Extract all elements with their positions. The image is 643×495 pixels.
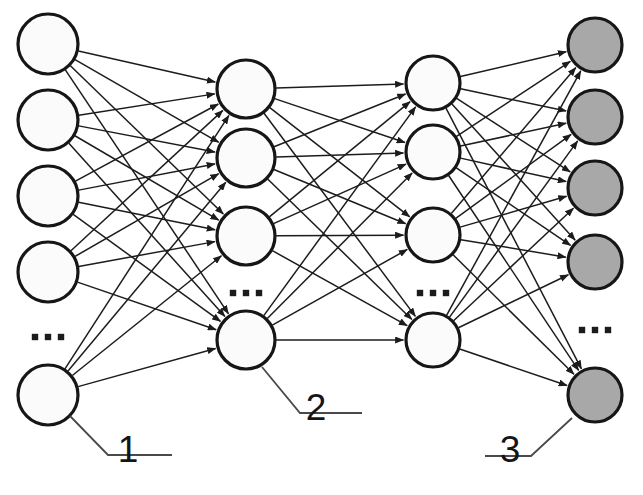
edge-input-layer-5-to-hidden-layer-1-1 [65, 115, 229, 368]
edge-hidden-layer-1-4-to-hidden-layer-2-1 [264, 107, 416, 316]
connection-edges-group [65, 51, 581, 387]
edge-hidden-layer-2-3-to-output-layer-1 [451, 67, 576, 213]
output-node-4[interactable] [568, 235, 622, 289]
neural-network-diagram: 123 [0, 0, 643, 495]
edge-input-layer-5-to-hidden-layer-1-2 [68, 182, 226, 371]
edge-hidden-layer-2-3-to-output-layer-4 [461, 240, 566, 258]
callout-1: 1 [70, 416, 172, 470]
callout-labels-group: 123 [70, 367, 572, 470]
output-layer-ellipsis [579, 327, 611, 333]
input-node-1[interactable] [18, 14, 78, 74]
input-node-n[interactable] [18, 365, 78, 425]
ellipsis-dot [605, 327, 611, 333]
ellipsis-dot [443, 290, 449, 296]
ellipsis-dot [579, 327, 585, 333]
edge-hidden-layer-2-4-to-output-layer-2 [450, 141, 578, 317]
hidden-layer-1-ellipsis [230, 290, 262, 296]
callout-3: 3 [485, 418, 572, 470]
edge-input-layer-2-to-hidden-layer-1-4 [69, 143, 225, 316]
ellipsis-dot [256, 290, 262, 296]
input-layer-ellipsis [32, 334, 64, 340]
edge-input-layer-3-to-hidden-layer-1-1 [75, 104, 218, 181]
hidden1-node-2[interactable] [217, 129, 275, 187]
hidden1-node-n[interactable] [217, 311, 275, 369]
hidden2-node-1[interactable] [406, 56, 460, 110]
edge-hidden-layer-1-1-to-hidden-layer-2-3 [270, 108, 410, 217]
output-node-n[interactable] [568, 368, 622, 422]
edge-input-layer-2-to-hidden-layer-1-2 [79, 126, 215, 152]
callout-2-text: 2 [306, 387, 327, 428]
edge-hidden-layer-2-1-to-output-layer-1 [460, 52, 566, 77]
callout-3-leader-line [485, 418, 572, 456]
edge-input-layer-1-to-hidden-layer-1-1 [78, 51, 215, 82]
output-node-3[interactable] [568, 161, 622, 215]
hidden2-node-n[interactable] [406, 313, 460, 367]
edge-hidden-layer-1-4-to-hidden-layer-2-2 [267, 173, 412, 319]
edge-hidden-layer-1-1-to-hidden-layer-2-1 [276, 84, 403, 88]
edge-input-layer-4-to-hidden-layer-1-4 [78, 282, 217, 330]
output-node-1[interactable] [568, 18, 622, 72]
edge-hidden-layer-2-4-to-output-layer-3 [454, 208, 574, 321]
edge-hidden-layer-1-3-to-hidden-layer-2-1 [269, 102, 410, 217]
ellipsis-dot [32, 334, 38, 340]
callout-1-text: 1 [118, 429, 139, 470]
input-node-4[interactable] [18, 242, 78, 302]
edge-hidden-layer-2-4-to-output-layer-5 [460, 349, 567, 385]
ellipsis-dot [417, 290, 423, 296]
ellipsis-dot [243, 290, 249, 296]
input-node-2[interactable] [18, 90, 78, 150]
ellipsis-dot [58, 334, 64, 340]
hidden1-node-3[interactable] [217, 207, 275, 265]
edge-hidden-layer-2-1-to-output-layer-2 [461, 89, 567, 111]
edge-hidden-layer-2-2-to-output-layer-1 [457, 61, 571, 136]
neural-network-canvas: 123 [0, 0, 643, 495]
output-node-2[interactable] [568, 90, 622, 144]
hidden2-node-2[interactable] [406, 125, 460, 179]
hidden-layer-2-ellipsis [417, 290, 449, 296]
hidden2-node-3[interactable] [406, 208, 460, 262]
callout-2: 2 [262, 367, 362, 428]
input-node-3[interactable] [18, 166, 78, 226]
ellipsis-dot [430, 290, 436, 296]
ellipsis-dot [592, 327, 598, 333]
edge-hidden-layer-1-3-to-hidden-layer-2-3 [276, 235, 403, 236]
edge-hidden-layer-2-2-to-output-layer-5 [449, 175, 579, 370]
ellipsis-dot [45, 334, 51, 340]
ellipsis-dot [230, 290, 236, 296]
edge-hidden-layer-2-1-to-output-layer-4 [452, 104, 575, 240]
hidden1-node-1[interactable] [217, 60, 275, 118]
edge-hidden-layer-1-2-to-hidden-layer-2-1 [274, 94, 406, 147]
edge-input-layer-2-to-hidden-layer-1-1 [79, 94, 215, 115]
callout-3-text: 3 [500, 429, 521, 470]
edge-hidden-layer-2-3-to-output-layer-3 [460, 196, 567, 227]
edge-input-layer-5-to-hidden-layer-1-3 [72, 256, 221, 376]
edge-hidden-layer-1-1-to-hidden-layer-2-4 [264, 113, 415, 316]
